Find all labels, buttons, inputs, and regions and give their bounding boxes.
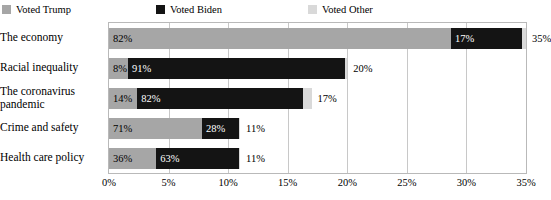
x-axis-tick-label: 5% xyxy=(162,177,176,188)
bar-segment-biden[interactable]: 17% xyxy=(451,28,522,49)
bar-row: 36%63%11% xyxy=(109,148,526,169)
stacked-bar[interactable]: 36%63% xyxy=(109,148,240,169)
bar-segment-value-label: 82% xyxy=(137,93,160,104)
bar-total-label: 11% xyxy=(240,148,265,169)
bar-segment-biden[interactable]: 28% xyxy=(202,118,239,139)
x-axis-tick-label: 0% xyxy=(102,177,116,188)
bar-rows: 82%17%35%8%91%20%14%82%17%71%28%11%36%63… xyxy=(109,23,526,173)
legend-item-voted-trump: Voted Trump xyxy=(2,4,71,15)
bar-total-label: 17% xyxy=(312,88,337,109)
bar-row: 71%28%11% xyxy=(109,118,526,139)
bar-segment-trump[interactable]: 14% xyxy=(109,88,137,109)
stacked-bar[interactable]: 71%28% xyxy=(109,118,240,139)
legend-label-voted-other: Voted Other xyxy=(322,4,373,15)
bar-segment-trump[interactable]: 8% xyxy=(109,58,128,79)
x-axis-tick-label: 30% xyxy=(457,177,476,188)
bar-segment-value-label: 91% xyxy=(128,63,151,74)
bar-row: 8%91%20% xyxy=(109,58,526,79)
bar-segment-biden[interactable]: 63% xyxy=(156,148,239,169)
category-label: Health care policy xyxy=(0,151,102,164)
bar-segment-value-label: 28% xyxy=(202,123,225,134)
legend-swatch-voted-other xyxy=(308,5,317,14)
bar-segment-biden[interactable]: 91% xyxy=(128,58,345,79)
x-axis-tick-label: 35% xyxy=(516,177,535,188)
bar-segment-value-label: 82% xyxy=(109,33,132,44)
bar-segment-value-label: 17% xyxy=(451,33,474,44)
bar-row: 82%17%35% xyxy=(109,28,526,49)
category-axis-labels: The economyRacial inequalityThe coronavi… xyxy=(0,22,106,174)
legend-item-voted-other: Voted Other xyxy=(308,4,373,15)
bar-segment-other[interactable] xyxy=(303,88,311,109)
legend-swatch-voted-trump xyxy=(2,5,11,14)
bar-segment-value-label: 14% xyxy=(109,93,132,104)
bar-segment-biden[interactable]: 82% xyxy=(137,88,303,109)
bar-segment-value-label: 8% xyxy=(109,63,127,74)
legend-swatch-voted-biden xyxy=(156,5,165,14)
bar-segment-value-label: 36% xyxy=(109,153,132,164)
stacked-bar[interactable]: 14%82% xyxy=(109,88,312,109)
bar-total-label: 11% xyxy=(240,118,265,139)
x-axis-tick-label: 20% xyxy=(338,177,357,188)
bar-segment-value-label: 63% xyxy=(156,153,179,164)
bar-segment-trump[interactable]: 36% xyxy=(109,148,156,169)
legend-label-voted-trump: Voted Trump xyxy=(16,4,71,15)
chart-legend: Voted Trump Voted Biden Voted Other xyxy=(0,0,540,18)
x-axis-tick-label: 25% xyxy=(397,177,416,188)
category-label: Racial inequality xyxy=(0,61,102,74)
x-axis-tick-label: 15% xyxy=(278,177,297,188)
category-label: The coronavirus pandemic xyxy=(0,85,102,110)
bar-row: 14%82%17% xyxy=(109,88,526,109)
plot-area: 82%17%35%8%91%20%14%82%17%71%28%11%36%63… xyxy=(108,22,527,174)
bar-total-label: 35% xyxy=(526,28,551,49)
bar-segment-trump[interactable]: 82% xyxy=(109,28,451,49)
bar-total-label: 20% xyxy=(347,58,372,79)
category-label: Crime and safety xyxy=(0,121,102,134)
category-label: The economy xyxy=(0,31,102,44)
x-axis-tick-label: 10% xyxy=(219,177,238,188)
bar-segment-value-label: 71% xyxy=(109,123,132,134)
stacked-bar[interactable]: 8%91% xyxy=(109,58,347,79)
legend-label-voted-biden: Voted Biden xyxy=(170,4,222,15)
legend-item-voted-biden: Voted Biden xyxy=(156,4,222,15)
bar-segment-trump[interactable]: 71% xyxy=(109,118,202,139)
stacked-bar[interactable]: 82%17% xyxy=(109,28,526,49)
x-axis: 0%5%10%15%20%25%30%35% xyxy=(108,175,527,195)
